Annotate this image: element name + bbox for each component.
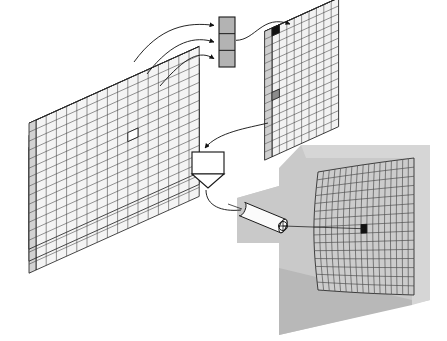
pipeline-diagram (0, 0, 447, 341)
buffer-cell-stack[interactable] (219, 17, 235, 67)
buffer-stack-group (219, 17, 235, 67)
buffer-outline (219, 17, 235, 67)
diagram-canvas (0, 0, 447, 341)
funnel-box (192, 152, 224, 174)
